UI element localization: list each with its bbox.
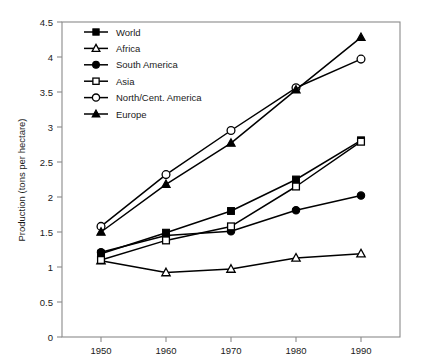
y-tick-label: 4.5 xyxy=(40,17,53,28)
production-line-chart: 00.511.522.533.544.5 1950196019701980199… xyxy=(0,0,428,363)
x-tick-label: 1950 xyxy=(90,345,111,356)
chart-svg: 00.511.522.533.544.5 1950196019701980199… xyxy=(0,0,428,363)
legend-label-africa: Africa xyxy=(116,43,141,54)
data-point-marker-open-circle xyxy=(162,171,170,179)
y-tick-label: 2 xyxy=(48,192,53,203)
y-tick-label: 1 xyxy=(48,262,53,273)
data-point-marker-open-square xyxy=(358,138,365,145)
data-point-marker-open-square xyxy=(293,183,300,190)
data-point-marker-filled-square xyxy=(228,208,235,215)
y-tick-label: 2.5 xyxy=(40,157,53,168)
y-tick-label: 0.5 xyxy=(40,297,53,308)
data-point-marker-open-circle xyxy=(92,94,99,101)
data-point-marker-open-circle xyxy=(357,55,365,63)
x-tick-label: 1990 xyxy=(350,345,371,356)
y-tick-label: 0 xyxy=(48,332,53,343)
data-point-marker-filled-square xyxy=(293,176,300,183)
legend-label-south-america: South America xyxy=(116,59,178,70)
data-point-marker-open-square xyxy=(93,78,99,84)
y-tick-label: 4 xyxy=(48,52,53,63)
data-point-marker-filled-circle xyxy=(357,192,364,199)
legend-label-europe: Europe xyxy=(116,109,147,120)
data-point-marker-filled-square xyxy=(93,29,99,35)
data-point-marker-filled-circle xyxy=(292,207,299,214)
legend-label-asia: Asia xyxy=(116,76,135,87)
data-point-marker-filled-circle xyxy=(97,249,104,256)
y-tick-label: 1.5 xyxy=(40,227,53,238)
x-tick-label: 1970 xyxy=(220,345,241,356)
data-point-marker-open-circle xyxy=(227,127,235,135)
legend-label-world: World xyxy=(116,27,141,38)
chart-background xyxy=(0,0,428,363)
y-tick-label: 3 xyxy=(48,122,53,133)
x-tick-label: 1980 xyxy=(285,345,306,356)
data-point-marker-open-square xyxy=(98,257,105,264)
x-tick-label: 1960 xyxy=(155,345,176,356)
y-axis-title: Production (tons per hectare) xyxy=(16,118,27,241)
legend-label-north-cent-america: North/Cent. America xyxy=(116,92,202,103)
data-point-marker-open-square xyxy=(163,237,170,244)
data-point-marker-open-square xyxy=(228,223,235,230)
y-tick-label: 3.5 xyxy=(40,87,53,98)
data-point-marker-filled-circle xyxy=(93,61,100,68)
